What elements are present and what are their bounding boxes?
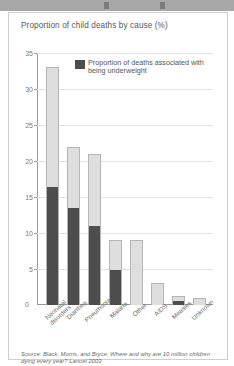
bar-segment-other-deaths xyxy=(131,241,142,305)
legend-swatch-icon xyxy=(75,60,85,69)
bar-column xyxy=(105,53,126,305)
y-tick-label: 25 xyxy=(25,122,33,129)
plot-area: 5101520253035 xyxy=(37,53,213,305)
chart-legend: Proportion of deaths associated with bei… xyxy=(75,59,206,76)
bar-segment-underweight xyxy=(47,187,58,305)
y-tick-label: 10 xyxy=(25,230,33,237)
bar-other xyxy=(130,240,143,305)
bar-segment-other-deaths xyxy=(47,68,58,186)
band-mark-left xyxy=(104,2,109,9)
bar-column xyxy=(147,53,168,305)
x-label-column: Measles xyxy=(168,306,189,352)
x-label-column: Unknown xyxy=(189,306,210,352)
x-label-column: AIDS xyxy=(147,306,168,352)
bar-segment-other-deaths xyxy=(68,148,79,209)
chart-title: Proportion of child deaths by cause (%) xyxy=(21,21,168,30)
x-axis-labels: NeonataldisordersDiarrheaPneumoniaMalari… xyxy=(37,306,213,352)
bar-segment-underweight xyxy=(68,208,79,305)
bar-segment-other-deaths xyxy=(110,241,121,269)
bar-malaria xyxy=(109,240,122,305)
x-label-column: Pneumonia xyxy=(84,306,105,352)
bar-neonatal-disorders xyxy=(46,67,59,305)
x-label-column: Diarrhea xyxy=(63,306,84,352)
y-tick-label: 15 xyxy=(25,194,33,201)
figure-card: Proportion of child deaths by cause (%) … xyxy=(8,12,228,360)
bar-segment-underweight xyxy=(110,270,121,305)
bar-column xyxy=(126,53,147,305)
band-mark-right xyxy=(160,2,165,9)
y-tick-label: 30 xyxy=(25,86,33,93)
source-note: Source: Black, Morris, and Bryce, Where … xyxy=(21,351,219,366)
bar-column xyxy=(189,53,210,305)
y-tick-label: 20 xyxy=(25,158,33,165)
x-label-column: Neonataldisorders xyxy=(42,306,63,352)
bar-column xyxy=(42,53,63,305)
y-tick-zero: 0 xyxy=(25,301,29,308)
bar-pneumonia xyxy=(88,154,101,305)
bar-segment-underweight xyxy=(89,226,100,305)
x-label-column: Other xyxy=(126,306,147,352)
y-tick-label: 35 xyxy=(25,50,33,57)
y-tick-label: 5 xyxy=(29,266,33,273)
top-gray-band xyxy=(0,0,234,11)
bar-segment-other-deaths xyxy=(152,284,163,305)
bar-column xyxy=(63,53,84,305)
bar-column xyxy=(84,53,105,305)
bar-column xyxy=(168,53,189,305)
legend-label: Proportion of deaths associated with bei… xyxy=(88,59,206,76)
bar-diarrhea xyxy=(67,147,80,305)
bar-segment-other-deaths xyxy=(89,155,100,227)
x-label-column: Malaria xyxy=(105,306,126,352)
bar-series-group xyxy=(37,53,213,305)
